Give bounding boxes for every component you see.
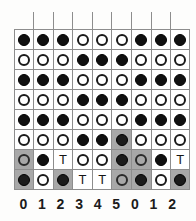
grid-spacer-cell[interactable] [15,12,34,30]
white-stone-icon [18,54,30,66]
grid-cell[interactable] [171,30,190,50]
grid-cell[interactable] [151,30,171,50]
grid-spacer-cell[interactable] [53,12,73,30]
grid-cell[interactable] [112,110,132,130]
black-stone-icon [18,174,30,186]
grid-cell[interactable] [53,110,73,130]
grid-cell[interactable] [15,70,34,90]
grid-cell[interactable] [171,130,190,150]
grid-cell[interactable]: T [73,170,93,190]
grid-cell[interactable] [34,70,54,90]
grid-cell[interactable] [112,170,132,190]
grid-cell[interactable] [132,170,152,190]
grid-cell[interactable] [53,70,73,90]
t-marker-label: T [79,172,87,187]
grid-cell[interactable] [15,50,34,70]
black-stone-icon [37,34,49,46]
grid-cell[interactable] [53,30,73,50]
grid-cell[interactable] [34,90,54,110]
grid-cell[interactable] [132,150,152,170]
grid-cell[interactable] [151,90,171,110]
grid-spacer-cell[interactable] [73,12,93,30]
white-stone-icon [18,154,30,166]
grid-cell[interactable] [151,130,171,150]
white-stone-icon [57,54,69,66]
grid-cell[interactable] [15,30,34,50]
grid-cell[interactable] [34,50,54,70]
grid-cell[interactable]: T [53,150,73,170]
grid-cell[interactable] [112,30,132,50]
grid-cell[interactable] [132,110,152,130]
grid-cell[interactable] [92,70,112,90]
grid-spacer-cell[interactable] [112,12,132,30]
grid-cell[interactable] [53,90,73,110]
grid-cell[interactable] [132,50,152,70]
grid-cell[interactable] [171,110,190,130]
black-stone-icon [57,174,69,186]
grid-cell[interactable] [112,50,132,70]
grid-cell[interactable] [92,110,112,130]
grid-cell[interactable] [15,150,34,170]
grid-cell[interactable] [151,70,171,90]
grid-cell[interactable] [92,130,112,150]
grid-cell[interactable] [132,70,152,90]
grid-cell[interactable] [73,90,93,110]
grid-cell[interactable] [53,130,73,150]
grid-cell[interactable] [92,50,112,70]
grid-cell[interactable] [73,150,93,170]
grid-cell[interactable] [151,150,171,170]
grid-cell[interactable] [34,110,54,130]
grid-cell[interactable] [151,110,171,130]
grid-cell[interactable] [112,130,132,150]
grid-cell[interactable] [34,170,54,190]
grid-cell[interactable] [171,90,190,110]
grid-cell[interactable] [15,110,34,130]
black-stone-icon [174,74,186,86]
grid-cell[interactable] [34,130,54,150]
black-stone-icon [116,54,128,66]
white-stone-icon [96,154,108,166]
grid-cell[interactable] [132,90,152,110]
grid-cell[interactable] [15,90,34,110]
grid-cell[interactable] [132,30,152,50]
grid-cell[interactable] [73,110,93,130]
black-stone-icon [96,54,108,66]
column-label: 2 [163,196,182,212]
grid-cell[interactable] [171,50,190,70]
white-stone-icon [174,94,186,106]
grid-cell[interactable] [73,70,93,90]
grid-cell[interactable] [73,130,93,150]
grid-cell[interactable] [112,90,132,110]
grid-cell[interactable]: T [171,150,190,170]
black-stone-icon [57,74,69,86]
grid-cell[interactable] [151,170,171,190]
grid-table: TTTT [14,12,190,190]
grid-spacer-cell[interactable] [132,12,152,30]
white-stone-icon [135,134,147,146]
grid-spacer-cell[interactable] [171,12,190,30]
grid-cell[interactable] [73,30,93,50]
grid-cell[interactable] [92,30,112,50]
grid-cell[interactable]: T [92,170,112,190]
grid-cell[interactable] [15,170,34,190]
grid-cell[interactable] [171,70,190,90]
grid-spacer-cell[interactable] [92,12,112,30]
grid-cell[interactable] [112,150,132,170]
grid-cell[interactable] [112,70,132,90]
white-stone-icon [116,114,128,126]
grid-cell[interactable] [171,170,190,190]
grid-cell[interactable] [34,30,54,50]
grid-spacer-cell[interactable] [151,12,171,30]
grid-cell[interactable] [92,150,112,170]
white-stone-icon [155,54,167,66]
grid-cell[interactable] [53,50,73,70]
grid-cell[interactable] [53,170,73,190]
grid-cell[interactable] [15,130,34,150]
grid-cell[interactable] [151,50,171,70]
grid-cell[interactable] [73,50,93,70]
grid-cell[interactable] [132,130,152,150]
grid-cell[interactable] [34,150,54,170]
grid-spacer-cell[interactable] [34,12,54,30]
grid-cell[interactable] [92,90,112,110]
white-stone-icon [174,54,186,66]
